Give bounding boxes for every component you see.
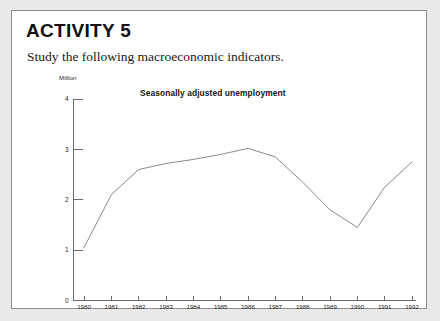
screenshot-page: ACTIVITY 5 Study the following macroecon…	[0, 0, 440, 321]
page-title: ACTIVITY 5	[26, 20, 131, 42]
x-tick-label: 1990	[351, 303, 365, 309]
x-tick-label: 1988	[296, 303, 310, 309]
activity-instruction: Study the following macroeconomic indica…	[27, 49, 284, 65]
x-tick-label: 1987	[269, 303, 283, 309]
y-tick-label: 1	[65, 246, 69, 253]
y-tick-label: 0	[65, 297, 69, 304]
x-tick-label: 1986	[241, 303, 255, 309]
y-tick-label: 2	[65, 196, 69, 203]
x-tick-label: 1982	[132, 303, 146, 309]
x-tick-label: 1981	[105, 303, 119, 309]
x-axis-ticks: 1980198119821983198419851986198719881989…	[77, 296, 419, 310]
line-chart-plot: 01234 1980198119821983198419851986198719…	[12, 73, 426, 309]
chart-container: Seasonally adjusted unemployment Million…	[12, 73, 426, 309]
x-tick-label: 1984	[187, 303, 201, 309]
y-tick-label: 4	[65, 95, 69, 102]
x-tick-label: 1989	[323, 303, 337, 309]
chart-axes	[74, 99, 417, 301]
data-series-line	[84, 148, 412, 247]
x-tick-label: 1985	[214, 303, 228, 309]
x-tick-label: 1983	[159, 303, 173, 309]
activity-card: ACTIVITY 5 Study the following macroecon…	[11, 10, 427, 309]
x-tick-label: 1980	[77, 303, 91, 309]
y-tick-label: 3	[65, 146, 69, 153]
x-tick-label: 1991	[378, 303, 392, 309]
x-tick-label: 1992	[405, 303, 419, 309]
